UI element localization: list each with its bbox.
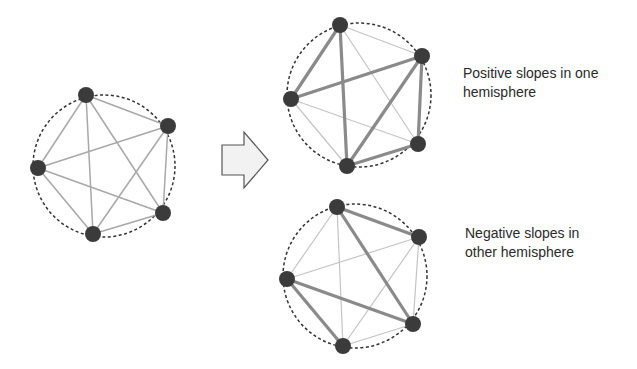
thin-edge-n1-n2 <box>86 95 168 126</box>
label-line: Positive slopes in one <box>463 64 598 83</box>
label-line: Negative slopes in <box>465 224 579 243</box>
node-n5 <box>339 158 355 174</box>
thick-edge-n1-n4 <box>337 207 413 324</box>
node-n3 <box>283 91 299 107</box>
node-n4 <box>155 205 171 221</box>
thin-edge-n2-n3 <box>38 126 168 168</box>
thin-edge-n2-n4 <box>413 237 419 324</box>
node-n2 <box>160 118 176 134</box>
node-n4 <box>410 136 426 152</box>
node-n2 <box>411 229 427 245</box>
node-n1 <box>78 87 94 103</box>
node-n5 <box>335 338 351 354</box>
thick-edge-n2-n3 <box>291 56 422 99</box>
node-n1 <box>329 199 345 215</box>
network-diagram <box>0 0 637 369</box>
node-n3 <box>30 160 46 176</box>
positive-slopes-network <box>283 17 431 174</box>
thin-edge-n2-n3 <box>287 237 419 279</box>
thick-edge-n1-n2 <box>337 207 419 237</box>
thin-edge-n1-n5 <box>337 207 343 346</box>
node-n1 <box>332 17 348 33</box>
thin-edge-n2-n4 <box>163 126 168 213</box>
node-n2 <box>414 48 430 64</box>
thick-edge-n2-n5 <box>347 56 422 166</box>
right-arrow-icon <box>222 132 268 188</box>
thick-edge-n1-n5 <box>340 25 347 166</box>
positive-slopes-label: Positive slopes in one hemisphere <box>463 64 598 102</box>
thick-edge-n1-n3 <box>291 25 340 99</box>
label-line: hemisphere <box>463 83 598 102</box>
thin-edge-n4-n5 <box>343 324 413 346</box>
thin-edge-n4-n5 <box>93 213 163 234</box>
thin-edge-n1-n4 <box>340 25 418 144</box>
negative-slopes-label: Negative slopes in other hemisphere <box>465 224 579 262</box>
thin-edge-n1-n5 <box>86 95 93 234</box>
original-network <box>30 87 176 242</box>
node-n3 <box>279 271 295 287</box>
node-n4 <box>405 316 421 332</box>
thick-edge-n2-n4 <box>418 56 422 144</box>
node-n5 <box>85 226 101 242</box>
thin-edge-n1-n3 <box>38 95 86 168</box>
thin-edge-n1-n2 <box>340 25 422 56</box>
label-line: other hemisphere <box>465 243 579 262</box>
negative-slopes-network <box>279 199 427 354</box>
